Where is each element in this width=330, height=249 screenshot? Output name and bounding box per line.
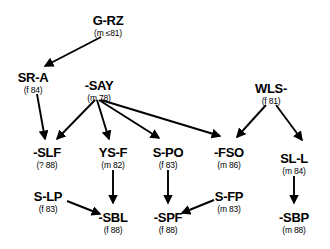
node-meta-say: (m 78) <box>85 94 114 103</box>
node-sr_a: SR-A(f 84) <box>18 71 49 95</box>
node-label-sbl: -SBL <box>98 211 127 224</box>
arrow-wls-to-fso <box>237 105 266 137</box>
node-fso: -FSO(m 86) <box>214 146 244 170</box>
node-label-sl_l: SL-L <box>280 152 308 165</box>
node-meta-s_lp: (f 83) <box>34 205 62 214</box>
node-label-s_po: S-PO <box>153 146 184 159</box>
node-meta-ys_f: (m 82) <box>99 161 127 170</box>
node-wls: WLS-(f 81) <box>255 82 287 106</box>
node-meta-slf: (? 88) <box>33 161 61 170</box>
node-say: -SAY(m 78) <box>85 79 114 103</box>
node-s_po: S-PO(f 83) <box>153 146 184 170</box>
node-meta-g_rz: (m ≤81) <box>93 29 124 38</box>
node-label-g_rz: G-RZ <box>93 14 124 27</box>
node-meta-sr_a: (f 84) <box>18 86 49 95</box>
arrow-say-to-s_po <box>99 100 159 138</box>
node-meta-sl_l: (m 84) <box>280 167 308 176</box>
node-g_rz: G-RZ(m ≤81) <box>93 14 124 38</box>
arrow-g_rz-to-sr_a <box>45 37 101 66</box>
node-label-s_lp: S-LP <box>34 190 62 203</box>
node-sbl: -SBL(f 88) <box>98 211 127 235</box>
node-slf: -SLF(? 88) <box>33 146 61 170</box>
node-ys_f: YS-F(m 82) <box>99 146 127 170</box>
node-s_lp: S-LP(f 83) <box>34 190 62 214</box>
arrow-s_fp-to-spf <box>182 200 214 213</box>
node-label-s_fp: S-FP <box>215 190 243 203</box>
node-label-wls: WLS- <box>255 82 287 95</box>
node-label-sbp: -SBP <box>279 211 309 224</box>
arrow-wls-to-sl_l <box>276 105 302 140</box>
node-label-sr_a: SR-A <box>18 71 49 84</box>
arrow-say-to-fso <box>101 100 220 136</box>
pedigree-diagram: G-RZ(m ≤81)SR-A(f 84)-SAY(m 78)WLS-(f 81… <box>0 0 330 249</box>
node-meta-s_fp: (m 83) <box>215 205 243 214</box>
arrow-s_lp-to-sbl <box>67 201 100 214</box>
arrow-say-to-slf <box>57 100 95 139</box>
node-meta-wls: (f 81) <box>255 97 287 106</box>
node-label-say: -SAY <box>85 79 114 92</box>
node-s_fp: S-FP(m 83) <box>215 190 243 214</box>
node-meta-spf: (f 88) <box>154 226 182 235</box>
node-label-spf: -SPF <box>154 211 182 224</box>
node-meta-fso: (m 86) <box>214 161 244 170</box>
node-meta-sbp: (m 88) <box>279 226 309 235</box>
arrow-sr_a-to-slf <box>37 94 45 139</box>
node-label-slf: -SLF <box>33 146 61 159</box>
node-sl_l: SL-L(m 84) <box>280 152 308 176</box>
node-sbp: -SBP(m 88) <box>279 211 309 235</box>
node-label-ys_f: YS-F <box>99 146 127 159</box>
node-label-fso: -FSO <box>214 146 244 159</box>
node-spf: -SPF(f 88) <box>154 211 182 235</box>
transmission-arrows <box>37 37 302 214</box>
node-meta-sbl: (f 88) <box>98 226 127 235</box>
node-meta-s_po: (f 83) <box>153 161 184 170</box>
